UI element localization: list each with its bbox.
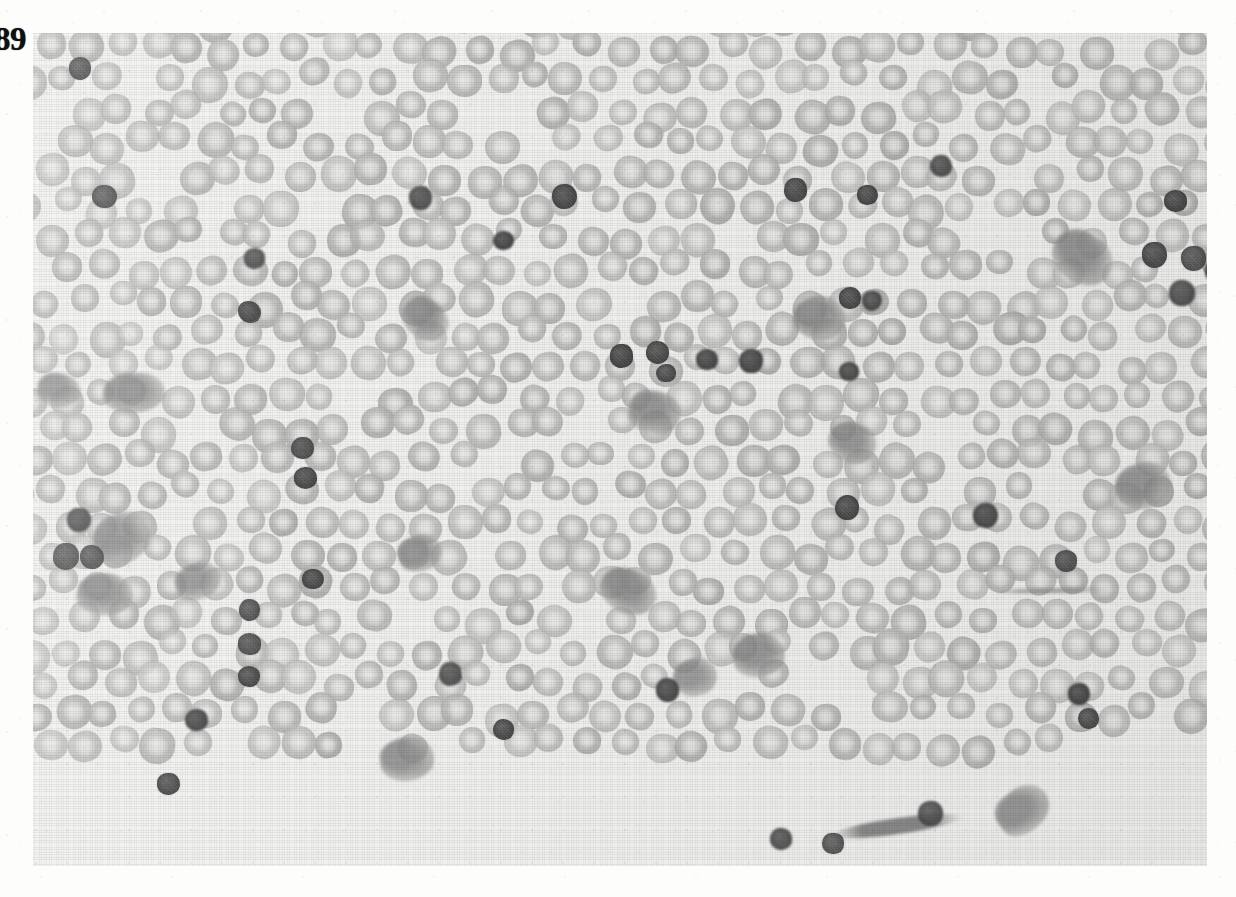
lymphocyte-nucleus (439, 662, 462, 686)
lymphocyte-nucleus (930, 155, 952, 177)
lymphocyte-nucleus (244, 248, 265, 269)
lymphocyte-nucleus (696, 349, 718, 370)
lymphocyte-nucleus (238, 301, 260, 322)
lymphocyte-nucleus (1169, 280, 1195, 306)
lymphocyte-nucleus (1181, 246, 1206, 271)
lymphocyte-nucleus (53, 543, 79, 570)
lymphocyte-nucleus (92, 185, 117, 208)
lymphocyte-nucleus (739, 349, 763, 373)
lymphocyte-nucleus (862, 291, 882, 311)
blood-smear-micrograph: Peripheral blood smear photomicrograph s… (33, 33, 1207, 866)
lymphocyte-nucleus (610, 344, 633, 368)
lymphocyte-nucleus (302, 569, 324, 589)
lymphocyte-nucleus (157, 773, 180, 795)
lymphocyte-nucleus (185, 709, 208, 731)
lymphocyte-nucleus (1055, 550, 1077, 572)
lymphocyte-nucleus (1142, 242, 1167, 268)
lymphocyte-nucleus (294, 467, 317, 489)
lymphocyte-nucleus (918, 801, 943, 826)
lymphocyte-nucleus (839, 362, 859, 381)
lymphocyte-nucleus (1164, 190, 1187, 212)
lymphocyte-nucleus (238, 666, 260, 687)
lymphocyte-nucleus (69, 57, 91, 80)
lymphocyte-nucleus (1068, 683, 1090, 705)
lymphocyte-nucleus (857, 185, 878, 205)
lymphocyte-nucleus (552, 184, 577, 209)
lymphocyte-nucleus (973, 503, 998, 528)
lymphocyte-nucleus (646, 341, 669, 364)
lymphocyte-nucleus (656, 364, 676, 382)
lymphocyte-nucleus (80, 545, 104, 569)
lymphocyte-nucleus (67, 508, 91, 532)
lymphocyte-nucleus (1078, 708, 1099, 729)
lymphocyte-nucleus (656, 678, 679, 702)
lymphocyte-nucleus (239, 599, 260, 621)
lymphocyte-nucleus (291, 437, 314, 459)
lymphocyte-nucleus (839, 287, 861, 309)
lymphocyte-nucleus (238, 633, 261, 655)
lymphocyte-nucleus (493, 719, 514, 740)
lymphocyte-nucleus (822, 833, 844, 854)
lymphocyte-nucleus (493, 231, 514, 250)
lymphocyte-nucleus (784, 178, 807, 202)
lymphocyte-nucleus-layer (33, 33, 1207, 866)
lymphocyte-nucleus (409, 186, 432, 210)
lymphocyte-nucleus (770, 828, 792, 850)
page-canvas: 89 Peripheral blood smear photomicrograp… (0, 0, 1236, 897)
lymphocyte-nucleus (835, 495, 859, 520)
